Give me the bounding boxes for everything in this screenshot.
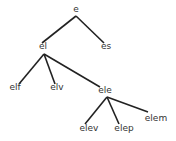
node-es: es xyxy=(101,41,112,51)
node-elem: elem xyxy=(145,113,167,123)
node-elv: elv xyxy=(50,82,64,92)
edge-ele-elev xyxy=(85,97,107,124)
edge-el-elf xyxy=(19,54,44,84)
tree-diagram: eeleselfelveleelevelepelem xyxy=(0,0,176,141)
node-ele: ele xyxy=(98,85,112,95)
node-elev: elev xyxy=(80,123,100,133)
edge-el-elv xyxy=(44,54,55,84)
edge-e-el xyxy=(42,16,76,43)
node-el: el xyxy=(39,41,47,51)
edge-e-es xyxy=(76,16,104,43)
node-elep: elep xyxy=(114,123,134,133)
node-elf: elf xyxy=(9,82,21,92)
node-e: e xyxy=(73,4,79,14)
